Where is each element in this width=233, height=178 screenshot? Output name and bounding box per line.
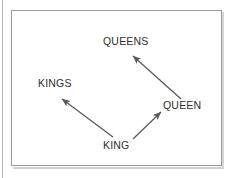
node-label-queen: QUEEN (163, 100, 201, 111)
arrow-queen-to-queens (133, 56, 181, 99)
node-label-queens: QUEENS (103, 36, 149, 47)
node-label-kings: KINGS (38, 78, 72, 89)
diagram-canvas (0, 0, 233, 178)
node-label-king: KING (103, 140, 129, 151)
arrow-king-to-kings (62, 99, 113, 137)
arrow-king-to-queen (133, 112, 161, 139)
